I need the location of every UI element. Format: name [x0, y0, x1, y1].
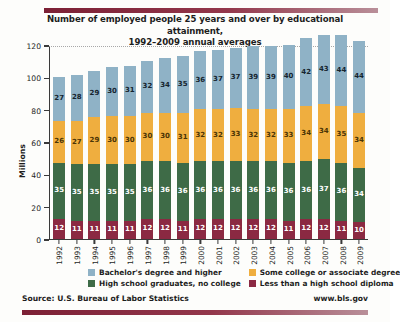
y-axis-title: Millions — [18, 144, 27, 178]
legend-label: Less than a high school diploma — [260, 279, 394, 288]
legend-label: Bachelor's degree and higher — [99, 268, 222, 277]
y-tick-label: 0 — [36, 236, 41, 245]
x-axis-label: 2004 — [267, 246, 276, 265]
x-axis-label: 2002 — [232, 246, 241, 265]
x-axis-label: 1995 — [108, 246, 117, 265]
x-axis-label: 1998 — [161, 246, 170, 265]
y-tick-label: 40 — [31, 171, 41, 180]
y-tick-label: 80 — [31, 106, 41, 115]
x-axis-label: 2009 — [356, 246, 365, 265]
legend-item[interactable]: Some college or associate degree — [249, 268, 400, 277]
y-tick — [44, 175, 49, 176]
legend-label: Some college or associate degree — [260, 268, 400, 277]
x-axis-label: 1993 — [72, 246, 81, 265]
x-label-cell: 1992 — [50, 0, 68, 322]
legend-swatch-icon — [249, 269, 256, 276]
legend-item[interactable]: Bachelor's degree and higher — [88, 268, 241, 277]
x-axis-label: 2000 — [197, 246, 206, 265]
x-axis-label: 1996 — [126, 246, 135, 265]
legend-swatch-icon — [88, 269, 95, 276]
legend-item[interactable]: High school graduates, no college — [88, 279, 241, 288]
website-url[interactable]: www.bls.gov — [314, 294, 369, 303]
y-tick-label: 60 — [31, 139, 41, 148]
x-axis-label: 2005 — [285, 246, 294, 265]
legend-swatch-icon — [88, 280, 95, 287]
x-axis-label: 1999 — [179, 246, 188, 265]
y-tick — [44, 207, 49, 208]
y-tick-label: 20 — [31, 203, 41, 212]
chart-legend: Bachelor's degree and higherSome college… — [88, 268, 380, 288]
y-tick — [44, 110, 49, 111]
x-axis-label: 1997 — [143, 246, 152, 265]
x-axis-label: 1994 — [90, 246, 99, 265]
legend-item[interactable]: Less than a high school diploma — [249, 279, 400, 288]
x-axis-label: 2003 — [250, 246, 259, 265]
x-axis-label: 2006 — [303, 246, 312, 265]
x-axis-label: 2001 — [214, 246, 223, 265]
x-axis-label: 2007 — [321, 246, 330, 265]
y-tick — [44, 78, 49, 79]
x-axis-label: 1992 — [55, 246, 64, 265]
y-tick-label: 120 — [27, 42, 42, 51]
x-axis-label: 2008 — [338, 246, 347, 265]
source-text: Source: U.S. Bureau of Labor Statistics — [22, 294, 189, 303]
y-tick — [44, 142, 49, 143]
y-tick — [44, 239, 49, 240]
x-label-cell: 1993 — [68, 0, 86, 322]
y-tick-label: 100 — [27, 74, 42, 83]
legend-swatch-icon — [249, 280, 256, 287]
legend-label: High school graduates, no college — [99, 279, 241, 288]
bottom-rule — [22, 310, 368, 315]
